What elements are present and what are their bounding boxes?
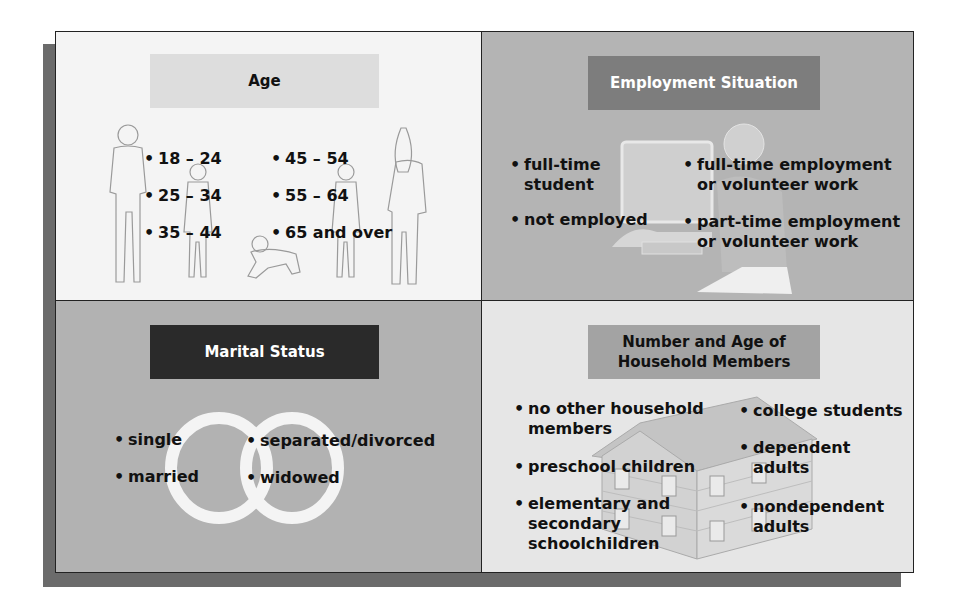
employment-item-4-line1: part-time employment [697,212,900,232]
household-item-5-line1: dependent [753,438,850,458]
age-item-4: 45 – 54 [271,149,349,169]
employment-item-3: full-time employment or volunteer work [683,155,892,195]
household-item-4-line1: college students [753,401,903,421]
panel-title-employment: Employment Situation [588,56,820,110]
household-item-1-line2: members [528,419,704,439]
marital-item-1: single [114,430,182,450]
marital-item-3: separated/divorced [246,431,435,451]
panel-household: Number and Age of Household Members no o… [482,301,913,572]
panel-title-age: Age [150,54,379,108]
employment-item-2-line1: not employed [524,210,648,230]
age-item-2: 25 – 34 [144,186,222,206]
household-item-3-line1: elementary and [528,494,670,514]
panel-marital: Marital Status single married separated/… [56,301,482,572]
panel-title-marital: Marital Status [150,325,379,379]
household-item-3-line3: schoolchildren [528,534,670,554]
marital-item-2: married [114,467,199,487]
age-item-1: 18 – 24 [144,149,222,169]
employment-item-3-line1: full-time employment [697,155,892,175]
age-item-5: 55 – 64 [271,186,349,206]
employment-item-3-line2: or volunteer work [697,175,892,195]
employment-item-2: not employed [510,210,648,230]
household-item-5-line2: adults [753,458,850,478]
panel-age: Age 18 – 24 25 – 34 35 – 44 45 – 54 55 –… [56,32,482,301]
marital-item-4: widowed [246,468,340,488]
panel-title-household: Number and Age of Household Members [588,325,820,379]
employment-item-4: part-time employment or volunteer work [683,212,900,252]
household-item-5: dependent adults [739,438,850,478]
household-item-3-line2: secondary [528,514,670,534]
employment-item-1: full-time student [510,155,601,195]
employment-item-1-line1: full-time [524,155,601,175]
age-item-6: 65 and over [271,223,392,243]
age-item-3: 35 – 44 [144,223,222,243]
household-title-line2: Household Members [618,352,791,372]
demographics-diagram: Age 18 – 24 25 – 34 35 – 44 45 – 54 55 –… [55,31,914,573]
employment-item-4-line2: or volunteer work [697,232,900,252]
household-item-6-line1: nondependent [753,497,884,517]
household-item-4: college students [739,401,903,421]
household-item-6: nondependent adults [739,497,884,537]
household-title-line1: Number and Age of [618,332,791,352]
employment-item-1-line2: student [524,175,601,195]
household-item-6-line2: adults [753,517,884,537]
household-item-3: elementary and secondary schoolchildren [514,494,670,554]
panel-employment: Employment Situation full-time student n… [482,32,913,301]
household-item-2: preschool children [514,457,695,477]
household-item-2-line1: preschool children [528,457,695,477]
household-item-1-line1: no other household [528,399,704,419]
household-item-1: no other household members [514,399,704,439]
